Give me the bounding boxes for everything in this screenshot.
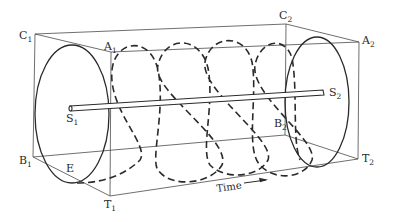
label-s2: S2 — [329, 86, 342, 101]
helix-trajectory — [77, 41, 312, 183]
label-t2: T2 — [362, 152, 374, 167]
label-b1: B1 — [19, 154, 32, 169]
label-a2: A2 — [361, 34, 375, 49]
label-s1: S1 — [66, 112, 78, 127]
label-c1: C1 — [19, 29, 32, 44]
arrowhead-icon — [259, 178, 268, 182]
end-orbit-ellipse — [285, 37, 349, 167]
label-a1: A1 — [103, 40, 117, 55]
time-axis-annotation: Time — [216, 178, 268, 194]
helix-time-diagram: C1 A1 C2 A2 S1 S2 B1 B2 T1 T2 E Time — [0, 0, 395, 222]
label-c2: C2 — [279, 9, 292, 24]
label-e: E — [66, 162, 74, 175]
time-label: Time — [216, 180, 243, 194]
label-t1: T1 — [104, 198, 116, 213]
